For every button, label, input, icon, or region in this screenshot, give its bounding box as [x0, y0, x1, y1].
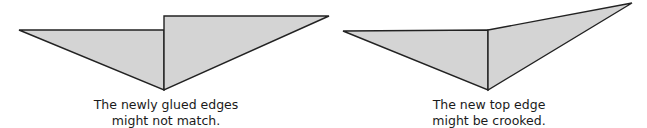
caption-crooked-top-edge: The new top edge might be crooked.: [369, 97, 609, 128]
left-triangle: [19, 30, 164, 90]
caption-line-2: might not match.: [46, 113, 286, 128]
figure-mismatched-edges: [19, 16, 329, 90]
caption-line-1: The newly glued edges: [46, 97, 286, 113]
caption-line-2: might be crooked.: [369, 113, 609, 128]
caption-line-1: The new top edge: [369, 97, 609, 113]
diagram-canvas: The newly glued edges might not match. T…: [0, 0, 647, 128]
caption-mismatched-edges: The newly glued edges might not match.: [46, 97, 286, 128]
right-triangle: [488, 3, 632, 90]
left-triangle: [343, 30, 488, 90]
right-triangle: [164, 16, 329, 90]
figure-crooked-top-edge: [343, 3, 632, 90]
